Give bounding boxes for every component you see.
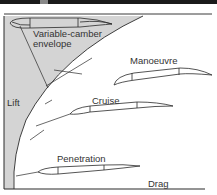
manoeuvre-airfoil — [114, 68, 212, 85]
manoeuvre-label: Manoeuvre — [130, 56, 178, 66]
tangent-line-4 — [45, 100, 52, 104]
penetration-airfoil — [38, 165, 140, 175]
cruise-label: Cruise — [92, 96, 119, 106]
lift-axis-label: Lift — [7, 98, 20, 108]
tangent-line-3 — [30, 130, 44, 140]
tangent-line-cruise — [36, 114, 70, 126]
penetration-label: Penetration — [57, 154, 106, 164]
drag-axis-label: Drag — [148, 179, 169, 189]
tangent-line-penetration — [16, 172, 38, 176]
envelope-label-line2: envelope — [33, 39, 102, 49]
cruise-airfoil — [70, 102, 173, 114]
envelope-label: Variable-camber envelope — [33, 29, 102, 49]
